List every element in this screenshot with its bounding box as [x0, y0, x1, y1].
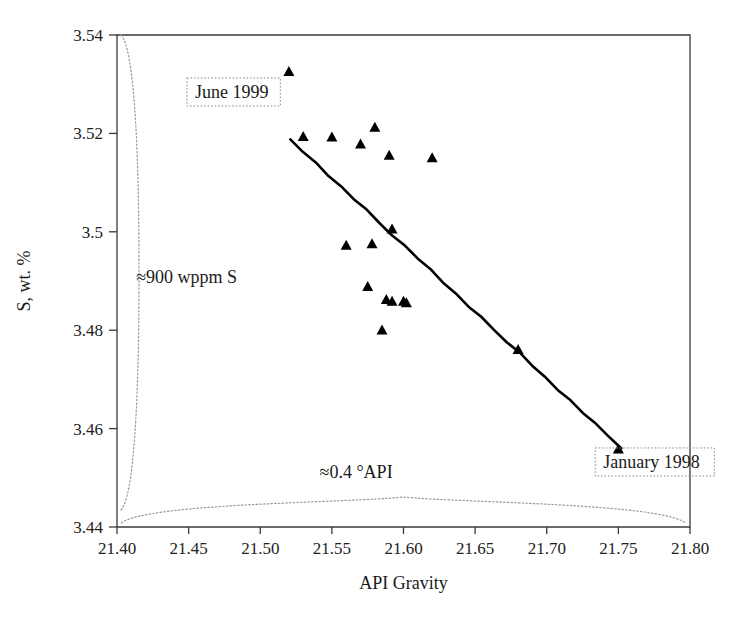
annotation-june-1999: June 1999	[195, 82, 268, 102]
data-point-marker	[326, 132, 337, 142]
y-tick-label: 3.48	[73, 321, 103, 340]
x-tick-label: 21.70	[528, 539, 566, 558]
x-axis-ticks: 21.4021.4521.5021.5521.6021.6521.7021.75…	[98, 527, 709, 558]
y-tick-label: 3.5	[82, 223, 103, 242]
y-tick-label: 3.44	[73, 518, 103, 537]
y-tick-label: 3.52	[73, 124, 103, 143]
x-tick-label: 21.80	[671, 539, 709, 558]
x-tick-label: 21.65	[456, 539, 494, 558]
x-tick-label: 21.40	[98, 539, 136, 558]
annotation-january-1998: January 1998	[603, 452, 699, 472]
y-tick-label: 3.46	[73, 420, 103, 439]
x-tick-label: 21.75	[599, 539, 637, 558]
x-tick-label: 21.55	[313, 539, 351, 558]
y-tick-label: 3.54	[73, 26, 103, 45]
y-axis-ticks: 3.443.463.483.53.523.54	[73, 26, 117, 537]
data-point-marker	[298, 131, 309, 141]
x-tick-label: 21.50	[241, 539, 279, 558]
data-point-marker	[362, 281, 373, 291]
data-point-marker	[366, 238, 377, 248]
x-tick-label: 21.45	[170, 539, 208, 558]
data-point-marker	[427, 152, 438, 162]
data-point-marker	[369, 122, 380, 132]
annotation-range-s: ≈900 wppm S	[136, 267, 237, 287]
trendline-group	[290, 139, 621, 448]
chart-container: 21.4021.4521.5021.5521.6021.6521.7021.75…	[0, 0, 753, 624]
data-point-marker	[387, 224, 398, 234]
x-axis-title: API Gravity	[359, 573, 448, 593]
data-point-marker	[355, 138, 366, 148]
x-tick-label: 21.60	[384, 539, 422, 558]
data-point-marker	[377, 324, 388, 334]
data-point-marker	[384, 150, 395, 160]
annotation-range-api: ≈0.4 °API	[320, 462, 393, 482]
chart-annotations: June 1999January 1998≈900 wppm S≈0.4 °AP…	[136, 78, 714, 482]
api-range-brace	[121, 497, 685, 523]
data-point-marker	[341, 240, 352, 250]
data-point-marker	[283, 66, 294, 76]
y-axis-title: S, wt. %	[14, 250, 34, 311]
regression-line	[290, 139, 621, 448]
scatter-plot: 21.4021.4521.5021.5521.6021.6521.7021.75…	[0, 0, 753, 624]
data-points	[283, 66, 623, 453]
